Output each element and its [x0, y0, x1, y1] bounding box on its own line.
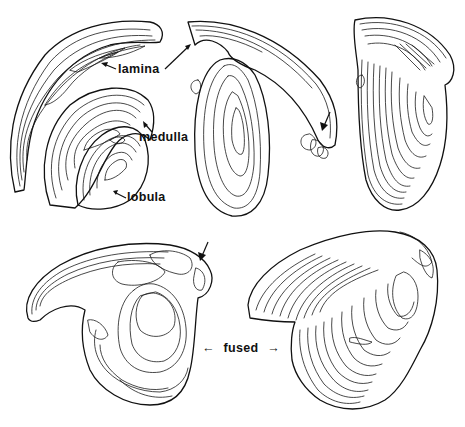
arrow-right-icon: →: [267, 341, 280, 355]
stacked-reconstruction-fused: [248, 231, 438, 409]
stacked-reconstruction-top-right: [354, 18, 454, 211]
arrow-marker-top: [320, 112, 330, 131]
label-lamina: lamina: [118, 62, 159, 76]
label-fused: fused: [224, 341, 259, 355]
arrow-marker-bottom: [198, 242, 208, 261]
lamina-drawing: [10, 21, 162, 192]
assembled-bottom-left-drawing: [27, 244, 212, 405]
arrow-left-icon: ←: [202, 341, 215, 355]
assembled-lateral-drawing: [188, 21, 337, 216]
label-medulla: medulla: [139, 130, 188, 144]
figure-canvas: [0, 0, 465, 427]
label-fused-group: ← fused →: [202, 341, 280, 355]
label-lobula: lobula: [127, 190, 166, 204]
